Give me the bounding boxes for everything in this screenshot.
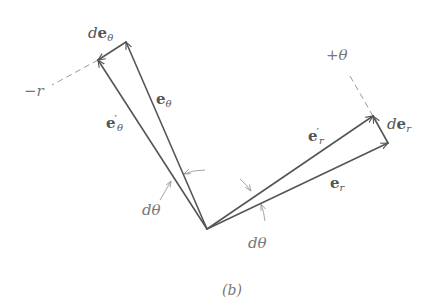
dtheta-right-arrow-outer <box>240 179 251 191</box>
label-plus-theta: +θ <box>326 48 348 63</box>
e-theta-vector <box>126 42 207 229</box>
polar-unit-vector-diagram: deθ eθ e′θ −r +θ der e′r er dθ dθ (b) <box>0 0 438 301</box>
label-e-theta-prime: e′θ <box>106 114 123 133</box>
plus-theta-dashed-line <box>350 76 373 116</box>
de-r-vector <box>373 116 388 143</box>
label-de-theta: deθ <box>88 26 113 43</box>
dtheta-right-arrow-inner <box>261 204 265 221</box>
dtheta-left-arrow-outer <box>160 181 171 200</box>
label-dtheta-right: dθ <box>248 236 267 251</box>
e-r-prime-vector <box>207 116 373 229</box>
diagram-canvas <box>0 0 438 301</box>
label-e-r: er <box>330 176 344 193</box>
label-e-r-prime: e′r <box>308 127 324 146</box>
label-minus-r: −r <box>24 84 44 99</box>
label-de-r: der <box>387 117 411 134</box>
minus-r-dashed-line <box>52 60 98 85</box>
e-r-vector <box>207 143 388 229</box>
label-e-theta: eθ <box>156 92 172 109</box>
figure-caption: (b) <box>222 283 242 297</box>
dtheta-left-arrow-inner <box>184 170 205 174</box>
de-theta-vector <box>98 42 126 60</box>
label-dtheta-left: dθ <box>142 203 161 218</box>
